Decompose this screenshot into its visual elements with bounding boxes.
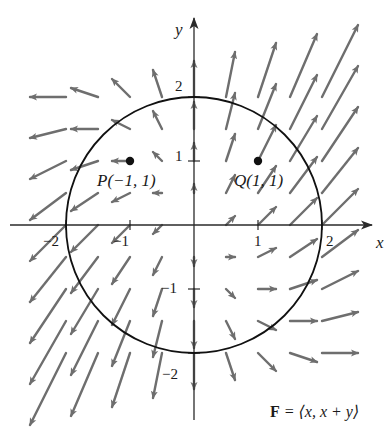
x-tick-label-neg1: −1 (113, 234, 129, 249)
field-arrow (258, 207, 276, 225)
x-tick-label-neg2: −2 (43, 234, 59, 249)
field-arrow (226, 321, 235, 339)
field-arrow (30, 193, 66, 220)
field-arrow (71, 257, 98, 293)
field-arrow (30, 353, 66, 425)
point-p-dot (126, 157, 134, 165)
field-arrow (258, 353, 276, 371)
field-arrow (153, 70, 162, 97)
x-tick-label-2: 2 (326, 234, 334, 249)
field-arrow (290, 198, 317, 225)
field-arrow (322, 271, 358, 289)
field-arrow (71, 88, 98, 97)
field-arrow (112, 257, 130, 284)
y-tick-label-2: 2 (175, 79, 183, 94)
field-arrow (226, 134, 235, 161)
field-arrow (290, 280, 317, 289)
field-arrow (226, 353, 235, 380)
field-arrow (153, 152, 162, 161)
field-definition: = ⟨x, x + y⟩ (280, 403, 359, 420)
field-arrow (71, 161, 98, 170)
field-arrow (71, 193, 98, 211)
field-arrow (153, 353, 162, 398)
field-symbol: F (270, 403, 280, 420)
field-formula: F = ⟨x, x + y⟩ (270, 404, 359, 420)
field-arrow (112, 193, 130, 202)
field-arrow (322, 189, 358, 225)
field-arrow (153, 111, 162, 129)
y-tick-label-neg2: −2 (162, 367, 178, 382)
x-tick-label-1: 1 (254, 234, 262, 249)
field-arrow (258, 125, 276, 161)
vector-field-plot (0, 0, 388, 431)
field-arrow (153, 257, 162, 275)
field-arrow (226, 52, 235, 97)
field-arrow (153, 225, 162, 234)
field-arrow (153, 321, 162, 357)
field-arrow (30, 161, 66, 179)
field-arrow (226, 289, 235, 298)
y-axis-label: y (175, 21, 183, 38)
field-arrow (290, 34, 317, 97)
y-tick-label-neg1: −1 (161, 281, 177, 296)
field-arrow (322, 25, 358, 97)
field-arrow (322, 66, 358, 129)
y-tick-label-1: 1 (175, 149, 183, 164)
field-arrow (226, 93, 235, 129)
field-arrow (30, 321, 66, 384)
point-q-label: Q(1, 1) (234, 172, 283, 189)
field-arrow (30, 129, 66, 138)
field-arrow (71, 225, 98, 252)
field-arrow (290, 157, 317, 193)
field-arrow (112, 79, 130, 97)
field-arrow (226, 216, 235, 225)
x-axis-label: x (376, 234, 384, 251)
field-arrow (112, 289, 130, 325)
field-arrow (290, 353, 317, 362)
field-arrow (258, 248, 276, 257)
field-arrow (71, 353, 98, 416)
point-q-dot (254, 157, 262, 165)
point-p-label: P(−1, 1) (97, 172, 156, 189)
field-arrow (322, 312, 358, 321)
field-arrow (290, 239, 317, 257)
